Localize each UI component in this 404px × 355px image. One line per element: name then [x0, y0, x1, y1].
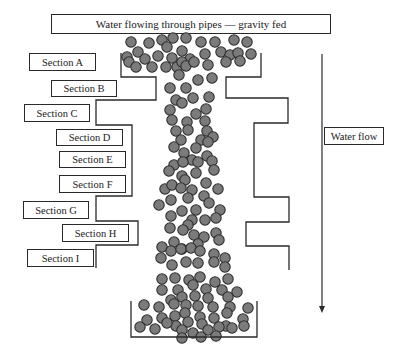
section-label-d: Section D	[56, 129, 123, 146]
water-particle	[131, 62, 141, 72]
water-particle	[139, 300, 149, 310]
water-particle	[242, 37, 252, 47]
water-particle	[162, 318, 172, 328]
pipe-right-wall	[226, 53, 289, 270]
water-particle	[157, 274, 167, 284]
water-particle	[168, 33, 178, 43]
water-particle	[209, 165, 219, 175]
water-particle	[222, 308, 232, 318]
water-particle	[189, 57, 199, 67]
water-particle	[181, 257, 191, 267]
water-particle	[191, 143, 201, 153]
water-particle	[165, 223, 175, 233]
water-particle	[210, 37, 220, 47]
section-label-a: Section A	[29, 53, 96, 71]
water-particle	[196, 37, 206, 47]
water-particle	[176, 183, 186, 193]
water-particle	[162, 42, 172, 52]
water-particle	[183, 193, 193, 203]
water-particle	[203, 137, 213, 147]
water-particle	[220, 262, 230, 272]
water-particle	[211, 331, 221, 341]
water-particle	[156, 253, 166, 263]
water-particle	[190, 291, 200, 301]
water-particle	[166, 195, 176, 205]
water-particle	[188, 280, 198, 290]
water-particle	[166, 211, 176, 221]
water-particle	[235, 56, 245, 66]
water-particle	[177, 98, 187, 108]
water-particle	[191, 109, 201, 119]
section-label-c: Section C	[24, 104, 90, 122]
water-particle	[200, 215, 210, 225]
water-particle	[200, 49, 210, 59]
water-particle	[157, 285, 167, 295]
water-particle	[153, 51, 163, 61]
water-flow-label: Water flow	[324, 127, 384, 145]
water-particle	[213, 184, 223, 194]
water-particle	[201, 178, 211, 188]
water-particle	[200, 116, 210, 126]
section-label-b: Section B	[51, 80, 117, 97]
section-label-f: Section F	[59, 175, 126, 193]
water-particle	[223, 274, 233, 284]
water-particle	[204, 92, 214, 102]
water-particle	[193, 157, 203, 167]
water-particle	[211, 213, 221, 223]
water-particle	[169, 142, 179, 152]
water-particle	[204, 198, 214, 208]
water-particle	[208, 302, 218, 312]
water-particle	[195, 246, 205, 256]
water-particle	[147, 62, 157, 72]
water-particle	[188, 93, 198, 103]
water-particle	[193, 301, 203, 311]
water-particle	[239, 321, 249, 331]
water-particle	[135, 322, 145, 332]
water-particle	[166, 246, 176, 256]
water-particles	[122, 33, 256, 343]
water-particle	[191, 168, 201, 178]
water-particle	[221, 57, 231, 67]
water-particle	[181, 33, 191, 43]
water-particle	[178, 157, 188, 167]
water-particle	[170, 273, 180, 283]
water-particle	[201, 104, 211, 114]
water-particle	[167, 115, 177, 125]
water-particle	[161, 62, 171, 72]
water-particle	[144, 38, 154, 48]
water-particle	[246, 49, 256, 59]
water-particle	[183, 125, 193, 135]
water-particle	[126, 37, 136, 47]
water-particle	[191, 205, 201, 215]
water-particle	[164, 166, 174, 176]
water-particle	[165, 105, 175, 115]
water-particle	[177, 333, 187, 343]
water-particle	[193, 75, 203, 85]
water-particle	[209, 257, 219, 267]
flow-arrow-head-icon	[319, 306, 325, 313]
water-particle	[154, 302, 164, 312]
water-particle	[174, 70, 184, 80]
water-particle	[177, 46, 187, 56]
water-particle	[227, 323, 237, 333]
water-particle	[150, 324, 160, 334]
water-particle	[193, 258, 203, 268]
water-particle	[154, 200, 164, 210]
water-particle	[207, 73, 217, 83]
water-particle	[176, 244, 186, 254]
water-particle	[223, 292, 233, 302]
section-label-i: Section I	[27, 249, 94, 267]
water-particle	[177, 206, 187, 216]
water-particle	[169, 299, 179, 309]
section-label-h: Section H	[62, 224, 129, 242]
water-particle	[243, 303, 253, 313]
water-particle	[181, 83, 191, 93]
water-particle	[165, 83, 175, 93]
water-particle	[203, 60, 213, 70]
water-particle	[178, 225, 188, 235]
section-label-g: Section G	[23, 201, 89, 219]
section-label-e: Section E	[59, 151, 126, 168]
water-particle	[229, 35, 239, 45]
water-particle	[214, 235, 224, 245]
water-particle	[167, 260, 177, 270]
